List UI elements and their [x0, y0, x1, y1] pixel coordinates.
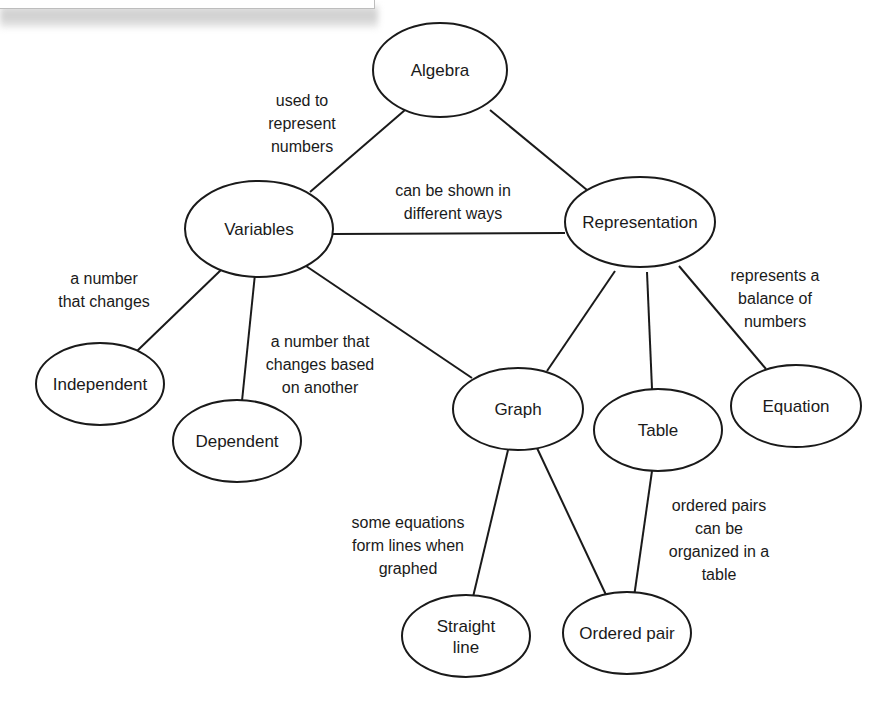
edge-variables-to-representation — [333, 233, 565, 234]
edge-representation-to-table — [647, 272, 652, 389]
node-ordered-pair: Ordered pair — [563, 592, 691, 674]
link-label-represents-a-balance-of-numbers: represents abalance ofnumbers — [731, 267, 820, 330]
edge-representation-to-graph — [547, 271, 615, 371]
link-label-ordered-pairs-can-be-organized-in-a-table: ordered pairscan beorganized in atable — [669, 497, 770, 583]
link-label-line: can be — [695, 520, 743, 537]
edge-table-to-ordered-pair — [634, 471, 652, 597]
link-label-line: different ways — [404, 205, 502, 222]
node-equation: Equation — [731, 365, 861, 447]
edge-graph-to-straight-line — [473, 450, 508, 597]
edge-graph-to-ordered-pair — [537, 448, 607, 597]
node-label: Representation — [582, 213, 697, 232]
link-label-line: represent — [268, 115, 336, 132]
node-table: Table — [594, 389, 722, 471]
link-label-line: balance of — [738, 290, 812, 307]
link-label-line: a number — [70, 270, 138, 287]
node-label: line — [453, 638, 479, 657]
link-label-line: that changes — [58, 293, 150, 310]
link-label-used-to-represent-numbers: used torepresentnumbers — [268, 92, 336, 155]
link-label-line: changes based — [266, 356, 375, 373]
node-algebra: Algebra — [373, 23, 507, 117]
link-label-line: represents a — [731, 267, 820, 284]
link-label-line: a number that — [271, 333, 370, 350]
node-label: Straight — [437, 617, 496, 636]
node-representation: Representation — [565, 177, 715, 267]
link-label-can-be-shown-in-different-ways: can be shown indifferent ways — [395, 182, 511, 222]
node-label: Table — [638, 421, 679, 440]
edge-variables-to-dependent — [242, 274, 255, 401]
link-label-line: some equations — [352, 514, 465, 531]
link-label-line: on another — [282, 379, 359, 396]
node-label: Variables — [224, 220, 294, 239]
link-label-line: table — [702, 566, 737, 583]
link-label-some-equations-form-lines-when-graphed: some equationsform lines whengraphed — [352, 514, 465, 577]
link-label-line: form lines when — [352, 537, 464, 554]
node-variables: Variables — [185, 181, 333, 277]
concept-map: AlgebraVariablesRepresentationIndependen… — [0, 0, 892, 716]
node-straight-line: Straightline — [402, 595, 530, 677]
node-label: Dependent — [195, 432, 278, 451]
link-label-line: can be shown in — [395, 182, 511, 199]
link-label-line: numbers — [744, 313, 806, 330]
node-graph: Graph — [453, 368, 583, 450]
link-label-line: graphed — [379, 560, 438, 577]
node-independent: Independent — [36, 343, 164, 425]
edge-algebra-to-representation — [490, 110, 587, 190]
node-label: Algebra — [411, 61, 470, 80]
node-label: Equation — [762, 397, 829, 416]
link-label-a-number-that-changes-based-on-another: a number thatchanges basedon another — [266, 333, 375, 396]
node-label: Graph — [494, 400, 541, 419]
nodes-layer: AlgebraVariablesRepresentationIndependen… — [36, 23, 861, 677]
link-label-line: organized in a — [669, 543, 770, 560]
node-ellipse — [402, 595, 530, 677]
node-label: Ordered pair — [579, 624, 675, 643]
edge-variables-to-independent — [137, 269, 222, 351]
node-dependent: Dependent — [173, 400, 301, 482]
link-label-line: numbers — [271, 138, 333, 155]
link-labels-layer: used torepresentnumberscan be shown indi… — [58, 92, 819, 583]
link-label-line: used to — [276, 92, 329, 109]
link-label-line: ordered pairs — [672, 497, 766, 514]
node-label: Independent — [53, 375, 148, 394]
link-label-a-number-that-changes: a numberthat changes — [58, 270, 150, 310]
